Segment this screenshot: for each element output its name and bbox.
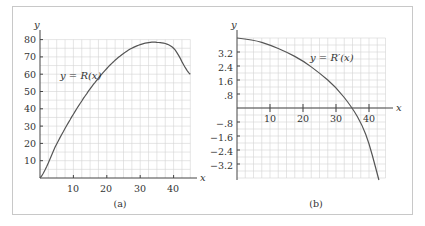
svg-text:40: 40 — [363, 113, 375, 124]
svg-text:10: 10 — [24, 155, 36, 166]
curve-label-r: y = R(x) — [59, 70, 101, 81]
svg-text:80: 80 — [24, 34, 36, 45]
panel-label-a: (a) — [113, 198, 126, 209]
svg-text:60: 60 — [24, 69, 36, 80]
svg-text:40: 40 — [167, 183, 179, 194]
svg-text:50: 50 — [24, 86, 36, 97]
svg-text:−1.6: −1.6 — [210, 132, 233, 143]
svg-text:10: 10 — [264, 113, 276, 124]
svg-text:20: 20 — [24, 138, 36, 149]
x-axis-label: x — [200, 172, 206, 183]
svg-text:20: 20 — [297, 113, 309, 124]
figure: y x 10 20 30 40 10 20 30 40 50 60 70 80 … — [0, 0, 425, 226]
svg-text:30: 30 — [134, 183, 146, 194]
panel-a: y x 10 20 30 40 10 20 30 40 50 60 70 80 … — [24, 19, 206, 209]
svg-text:30: 30 — [330, 113, 342, 124]
svg-text:.8: .8 — [224, 90, 233, 101]
y-tick-labels: 10 20 30 40 50 60 70 80 — [24, 34, 36, 166]
panel-b: y x 10 20 30 40 3.2 2.4 1.6 .8 −.8 −1.6 … — [210, 19, 402, 209]
x-tick-labels: 10 20 30 40 — [67, 183, 179, 194]
x-axis-label: x — [396, 102, 402, 113]
curve-label-r-prime: y = R′(x) — [309, 52, 354, 63]
svg-text:−2.4: −2.4 — [210, 146, 233, 157]
svg-text:70: 70 — [24, 51, 36, 62]
y-axis-label: y — [33, 19, 40, 30]
svg-text:20: 20 — [100, 183, 112, 194]
y-axis-label: y — [230, 19, 237, 30]
y-tick-labels: 3.2 2.4 1.6 .8 −.8 −1.6 −2.4 −3.2 — [210, 48, 233, 171]
svg-text:2.4: 2.4 — [218, 62, 233, 73]
svg-text:40: 40 — [24, 103, 36, 114]
panel-label-b: (b) — [309, 198, 323, 209]
svg-text:−3.2: −3.2 — [210, 160, 233, 171]
svg-text:3.2: 3.2 — [218, 48, 233, 59]
svg-text:30: 30 — [24, 121, 36, 132]
svg-text:1.6: 1.6 — [218, 76, 233, 87]
svg-text:−.8: −.8 — [216, 118, 233, 129]
svg-text:10: 10 — [67, 183, 79, 194]
